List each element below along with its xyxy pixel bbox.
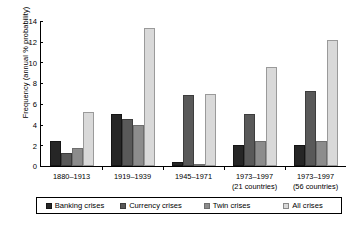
x-axis-label-period: 1945–1971 xyxy=(175,172,212,181)
x-axis-label-sublabel: (56 countries) xyxy=(285,182,346,192)
y-axis-tick-mark xyxy=(40,166,43,167)
bar-group xyxy=(285,21,346,166)
legend-label: Twin crises xyxy=(213,201,251,210)
y-axis-tick-label: 2 xyxy=(33,142,37,151)
x-axis-label: 1919–1939 xyxy=(102,172,163,191)
bar-group xyxy=(102,21,163,166)
x-axis-tick-mark xyxy=(285,166,286,170)
legend-item[interactable]: Twin crises xyxy=(189,201,265,210)
y-axis-tick-label: 4 xyxy=(33,121,37,130)
bar-groups xyxy=(41,21,346,166)
legend-label: All crises xyxy=(292,201,322,210)
x-axis-label-period: 1919–1939 xyxy=(114,172,151,181)
bar xyxy=(305,91,316,166)
bar xyxy=(172,162,183,166)
x-axis-label-sublabel: (21 countries) xyxy=(224,182,285,192)
x-axis-label: 1973–1997(56 countries) xyxy=(285,172,346,191)
bar xyxy=(327,40,338,166)
bar-group xyxy=(41,21,102,166)
y-axis-tick-label: 10 xyxy=(29,59,37,68)
x-axis-label: 1945–1971 xyxy=(163,172,224,191)
bar xyxy=(266,67,277,166)
y-axis-tick: 10 xyxy=(29,53,40,71)
bar xyxy=(294,145,305,166)
legend-item[interactable]: All crises xyxy=(265,201,341,210)
x-axis-label: 1880–1913 xyxy=(41,172,102,191)
bar xyxy=(205,94,216,167)
x-axis-label-period: 1973–1997 xyxy=(297,172,334,181)
y-axis-tick-label: 0 xyxy=(33,162,37,171)
bar xyxy=(122,119,133,166)
y-axis-tick: 4 xyxy=(33,116,40,134)
legend-swatch-icon xyxy=(204,203,210,209)
bar xyxy=(255,141,266,166)
x-axis-label-period: 1973–1997 xyxy=(236,172,273,181)
x-axis-tick-mark xyxy=(224,166,225,170)
y-axis-tick: 12 xyxy=(29,33,40,51)
legend-label: Banking crises xyxy=(55,201,104,210)
legend-item[interactable]: Currency crises xyxy=(113,201,189,210)
x-axis-tick-mark xyxy=(102,166,103,170)
bar xyxy=(133,125,144,166)
x-axis-labels: 1880–19131919–19391945–19711973–1997(21 … xyxy=(41,172,346,191)
bar-chart-figure: Frequency (annual % probability) 0246810… xyxy=(0,0,356,230)
legend-label: Currency crises xyxy=(129,201,182,210)
y-axis-tick: 2 xyxy=(33,136,40,154)
y-axis-tick-label: 14 xyxy=(29,17,37,26)
bar xyxy=(83,112,94,166)
bar-group xyxy=(163,21,224,166)
legend-swatch-icon xyxy=(46,203,52,209)
bar xyxy=(233,145,244,166)
legend-item[interactable]: Banking crises xyxy=(37,201,113,210)
bar xyxy=(61,153,72,166)
y-axis-tick-label: 8 xyxy=(33,79,37,88)
y-axis-tick: 8 xyxy=(33,74,40,92)
y-axis-tick-label: 6 xyxy=(33,100,37,109)
x-axis-label-period: 1880–1913 xyxy=(53,172,90,181)
x-axis-tick-mark xyxy=(163,166,164,170)
y-axis-tick: 0 xyxy=(33,157,40,175)
x-axis-line xyxy=(40,166,346,167)
bar-group xyxy=(224,21,285,166)
bar xyxy=(111,114,122,166)
plot-area: 02468101214 xyxy=(40,21,346,166)
legend-swatch-icon xyxy=(283,203,289,209)
bar xyxy=(194,164,205,166)
y-axis-tick: 6 xyxy=(33,95,40,113)
legend-swatch-icon xyxy=(120,203,126,209)
x-axis-label: 1973–1997(21 countries) xyxy=(224,172,285,191)
y-axis-tick: 14 xyxy=(29,12,40,30)
bar xyxy=(316,141,327,166)
bar xyxy=(144,28,155,166)
chart-legend: Banking crisesCurrency crisesTwin crises… xyxy=(36,197,342,214)
bar xyxy=(50,141,61,166)
bar xyxy=(72,148,83,166)
bar xyxy=(183,95,194,166)
bar xyxy=(244,114,255,166)
y-axis-tick-label: 12 xyxy=(29,38,37,47)
